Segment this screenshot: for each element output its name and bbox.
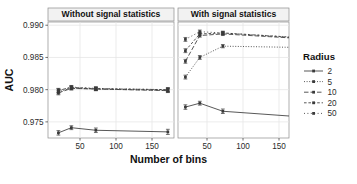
x-axis-tick-label: 100 xyxy=(236,142,250,151)
legend-item-label: 20 xyxy=(328,99,338,108)
panel-background-1 xyxy=(48,22,174,138)
legend-item-radius-50[interactable]: 50 xyxy=(304,109,337,118)
data-point-marker xyxy=(57,89,60,92)
data-point-marker xyxy=(298,36,301,39)
data-point-marker xyxy=(198,102,201,105)
data-point-marker xyxy=(94,129,97,132)
data-point-marker xyxy=(221,32,224,35)
legend-key-marker xyxy=(312,80,315,83)
legend-item-label: 10 xyxy=(328,88,338,97)
legend-item-radius-2[interactable]: 2 xyxy=(304,67,333,76)
data-point-marker xyxy=(184,106,187,109)
x-axis-tick-label: 100 xyxy=(109,142,123,151)
data-point-marker xyxy=(298,46,301,49)
legend-item-radius-10[interactable]: 10 xyxy=(304,88,337,97)
x-axis-tick-label: 50 xyxy=(202,142,212,151)
x-axis-tick-label: 150 xyxy=(145,142,159,151)
y-axis-tick-label: 0.990 xyxy=(23,21,44,30)
panel-title-without: Without signal statistics xyxy=(62,9,161,19)
data-point-marker xyxy=(298,36,301,39)
data-point-marker xyxy=(166,88,169,91)
panel-title-with: With signal statistics xyxy=(191,9,277,19)
data-point-marker xyxy=(70,126,73,129)
legend-item-label: 2 xyxy=(328,67,333,76)
legend-key-marker xyxy=(312,101,315,104)
data-point-marker xyxy=(57,131,60,134)
data-point-marker xyxy=(184,49,187,52)
legend-title: Radius xyxy=(303,51,335,62)
data-point-marker xyxy=(221,45,224,48)
y-axis: 0.9900.9850.9800.975 xyxy=(23,21,48,127)
y-axis-title: AUC xyxy=(3,68,15,91)
x-axis-title: Number of bins xyxy=(130,153,207,165)
x-axis-panel-2: 50100150 xyxy=(202,138,286,151)
auc-vs-bins-line-chart: Without signal statisticsWith signal sta… xyxy=(0,0,357,184)
legend-item-radius-5[interactable]: 5 xyxy=(304,78,333,87)
data-point-marker xyxy=(221,110,224,113)
y-axis-tick-label: 0.975 xyxy=(23,118,44,127)
legend-key-marker xyxy=(312,112,315,115)
data-point-marker xyxy=(298,115,301,118)
data-point-marker xyxy=(70,86,73,89)
data-point-marker xyxy=(198,30,201,33)
legend-item-label: 50 xyxy=(328,109,338,118)
data-point-marker xyxy=(198,56,201,59)
y-axis-tick-label: 0.985 xyxy=(23,53,44,62)
data-point-marker xyxy=(298,37,301,40)
y-axis-tick-label: 0.980 xyxy=(23,86,44,95)
data-point-marker xyxy=(184,76,187,79)
legend-key-marker xyxy=(312,91,315,94)
chart-figure: Without signal statisticsWith signal sta… xyxy=(0,0,357,184)
data-point-marker xyxy=(166,131,169,134)
x-axis-tick-label: 150 xyxy=(272,142,286,151)
data-point-marker xyxy=(94,87,97,90)
legend-item-label: 5 xyxy=(328,78,333,87)
x-axis-tick-label: 50 xyxy=(75,142,85,151)
x-axis-panel-1: 50100150 xyxy=(75,138,159,151)
data-point-marker xyxy=(184,38,187,41)
data-point-marker xyxy=(184,60,187,63)
legend-item-radius-20[interactable]: 20 xyxy=(304,99,337,108)
legend-key-marker xyxy=(312,70,315,73)
